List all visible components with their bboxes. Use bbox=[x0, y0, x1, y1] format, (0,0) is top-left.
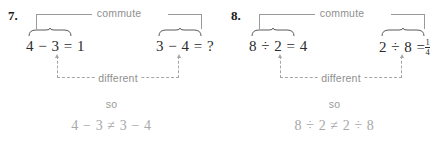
overbrace-right-icon bbox=[158, 28, 202, 37]
different-stem-right bbox=[401, 56, 402, 78]
fraction-numerator: 1 bbox=[425, 38, 429, 47]
different-connector: different bbox=[57, 54, 179, 84]
different-stem-right bbox=[178, 56, 179, 78]
different-label: different bbox=[318, 72, 364, 84]
different-label: different bbox=[95, 72, 141, 84]
commute-stem-left bbox=[36, 14, 37, 29]
equation-left: 4 − 3 = 1 bbox=[26, 38, 85, 55]
fraction-one-quarter: 14 bbox=[425, 38, 429, 56]
arrow-up-left-icon bbox=[55, 54, 59, 58]
different-stem-left bbox=[57, 56, 58, 78]
conclusion-statement: 8 ÷ 2 ≠ 2 ÷ 8 bbox=[223, 118, 446, 134]
fraction-denominator: 4 bbox=[425, 47, 429, 57]
commute-stem-right bbox=[201, 14, 202, 29]
overbrace-left-icon bbox=[251, 28, 295, 37]
commute-line-right bbox=[391, 14, 425, 15]
different-connector: different bbox=[280, 54, 402, 84]
overbrace-left-icon bbox=[28, 28, 72, 37]
overbrace-right-icon bbox=[381, 28, 425, 37]
problem-7: 7. commute 4 − 3 = 1 3 − 4 = ? bbox=[0, 0, 223, 152]
so-label: so bbox=[223, 98, 446, 110]
equation-right: 3 − 4 = ? bbox=[156, 38, 214, 55]
different-stem-left bbox=[280, 56, 281, 78]
conclusion-statement: 4 − 3 ≠ 3 − 4 bbox=[0, 118, 223, 134]
arrow-up-right-icon bbox=[177, 54, 181, 58]
equation-left: 8 ÷ 2 = 4 bbox=[249, 38, 308, 55]
problem-number: 8. bbox=[231, 8, 241, 24]
commute-stem-left bbox=[259, 14, 260, 29]
equation-right-prefix: 2 ÷ 8 = bbox=[379, 39, 425, 55]
arrow-up-right-icon bbox=[400, 54, 404, 58]
commute-line-right bbox=[168, 14, 202, 15]
arrow-up-left-icon bbox=[278, 54, 282, 58]
problem-8: 8. commute 8 ÷ 2 = 4 2 ÷ 8 =14 bbox=[223, 0, 446, 152]
commute-line-left bbox=[36, 14, 92, 15]
commute-label: commute bbox=[93, 7, 146, 19]
commute-line-left bbox=[259, 14, 315, 15]
commute-label: commute bbox=[316, 7, 369, 19]
commute-stem-right bbox=[424, 14, 425, 29]
so-label: so bbox=[0, 98, 223, 110]
worksheet: 7. commute 4 − 3 = 1 3 − 4 = ? bbox=[0, 0, 447, 152]
problem-number: 7. bbox=[8, 8, 18, 24]
